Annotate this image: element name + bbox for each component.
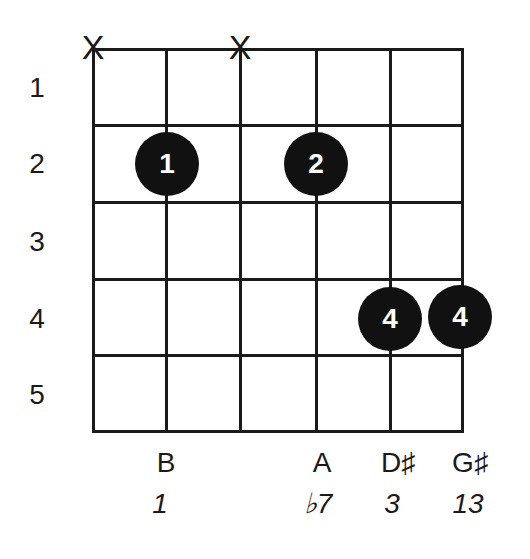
string-line	[239, 48, 242, 433]
string-line	[165, 48, 168, 433]
mute-icon-string-3: X	[225, 30, 255, 64]
fret-number-5: 5	[22, 381, 52, 409]
finger-label: 1	[159, 148, 175, 180]
note-label: A	[292, 448, 352, 478]
interval-label: 1	[125, 489, 195, 519]
mute-icon-string-1: X	[78, 30, 108, 64]
string-line	[389, 48, 392, 433]
note-label: G♯	[440, 448, 500, 478]
interval-label: ♭7	[283, 489, 353, 519]
note-label: D♯	[368, 448, 428, 478]
fret-number-2: 2	[22, 150, 52, 178]
fretboard	[92, 48, 464, 433]
fret-line	[92, 201, 464, 204]
interval-label: 13	[433, 489, 503, 519]
finger-dot: 2	[284, 132, 348, 196]
finger-label: 4	[452, 301, 468, 333]
finger-label: 4	[382, 303, 398, 335]
string-line	[315, 48, 318, 433]
finger-dot: 1	[135, 132, 199, 196]
fret-line	[92, 278, 464, 281]
interval-label: 3	[357, 489, 427, 519]
fret-line	[92, 354, 464, 357]
fret-line	[92, 124, 464, 127]
fret-number-1: 1	[22, 74, 52, 102]
note-label: B	[136, 448, 196, 478]
finger-label: 2	[308, 148, 324, 180]
fret-number-3: 3	[22, 228, 52, 256]
fret-number-4: 4	[22, 305, 52, 333]
finger-dot: 4	[358, 287, 422, 351]
finger-dot: 4	[428, 285, 492, 349]
